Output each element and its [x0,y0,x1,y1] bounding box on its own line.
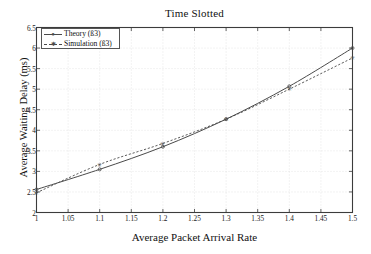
legend[interactable]: ● Theory (ß3) ✱ Simulation (ß3) [41,28,120,49]
grid-lines [37,28,353,213]
figure: Time Slotted Average Waiting Delay (ms) … [0,0,371,254]
svg-text:✳: ✳ [287,86,292,92]
svg-text:✳: ✳ [350,55,355,61]
svg-text:✳: ✳ [224,116,229,122]
legend-swatch-solid-line-icon: ● [44,30,62,38]
svg-text:✳: ✳ [34,190,39,196]
svg-text:✳: ✳ [97,162,102,168]
svg-text:✳: ✳ [160,141,165,147]
legend-label-simulation: Simulation (ß3) [64,39,112,49]
legend-entry-theory[interactable]: ● Theory (ß3) [44,29,100,39]
legend-entry-simulation[interactable]: ✱ Simulation (ß3) [44,39,112,49]
legend-label-theory: Theory (ß3) [64,29,100,39]
legend-swatch-dashed-line-icon: ✱ [44,40,62,48]
